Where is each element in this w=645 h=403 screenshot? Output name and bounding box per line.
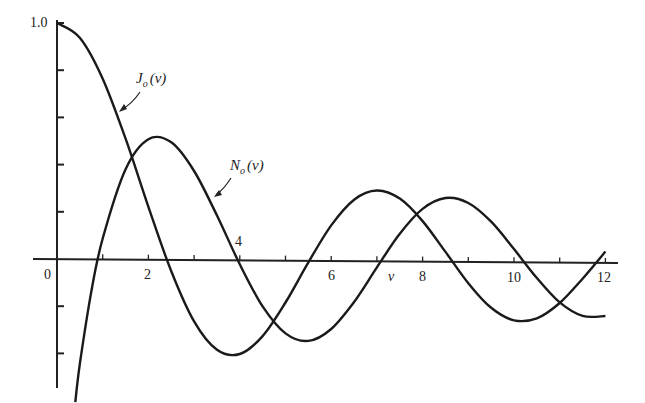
y-ticks [57,23,64,353]
x-tick-label-4: 4 [235,234,242,249]
x-tick-label-6: 6 [328,268,335,283]
x-axis [33,259,618,263]
j0-label: Jo(v) [136,70,166,89]
x-axis-label: v [388,269,395,284]
x-tick-label-12: 12 [597,270,611,285]
x-tick-label-10: 10 [507,270,521,285]
j0-arrowhead [119,104,127,112]
bessel-chart: 1.0 0 2 4 6 v 8 10 12 Jo(v) No(v) [0,0,645,403]
y-tick-label-1: 1.0 [30,15,48,30]
x-tick-label-2: 2 [144,267,151,282]
n0-label: No(v) [229,157,264,176]
x-tick-label-8: 8 [419,269,426,284]
n0-curve [75,137,605,402]
x-tick-label-0: 0 [44,267,51,282]
